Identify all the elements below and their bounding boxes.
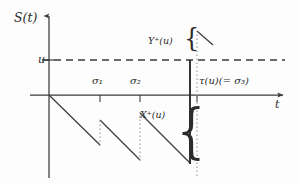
y-axis-label: S(t) [14,12,37,25]
tick-label-sigma2: σ₂ [130,76,141,86]
path-drift-0 [49,95,100,145]
tick-label-tau: τ(u)(= σ₃) [199,76,249,86]
annotation-y-plus: Y⁺(u) [148,36,173,46]
brace-y-plus: { [184,26,199,51]
path-drift-3-above-u [197,31,213,45]
path-drift-1 [100,120,140,160]
brace-x-plus: { [177,101,205,160]
figure-canvas: S(t) u σ₁ σ₂ τ(u)(= σ₃) t Y⁺(u) X⁺(u) { … [0,0,299,184]
level-u-label: u [38,54,45,65]
sawtooth-process-plot [0,0,299,184]
tick-label-sigma1: σ₁ [92,76,103,86]
x-axis-label: t [275,99,279,110]
annotation-x-plus: X⁺(u) [140,110,165,120]
